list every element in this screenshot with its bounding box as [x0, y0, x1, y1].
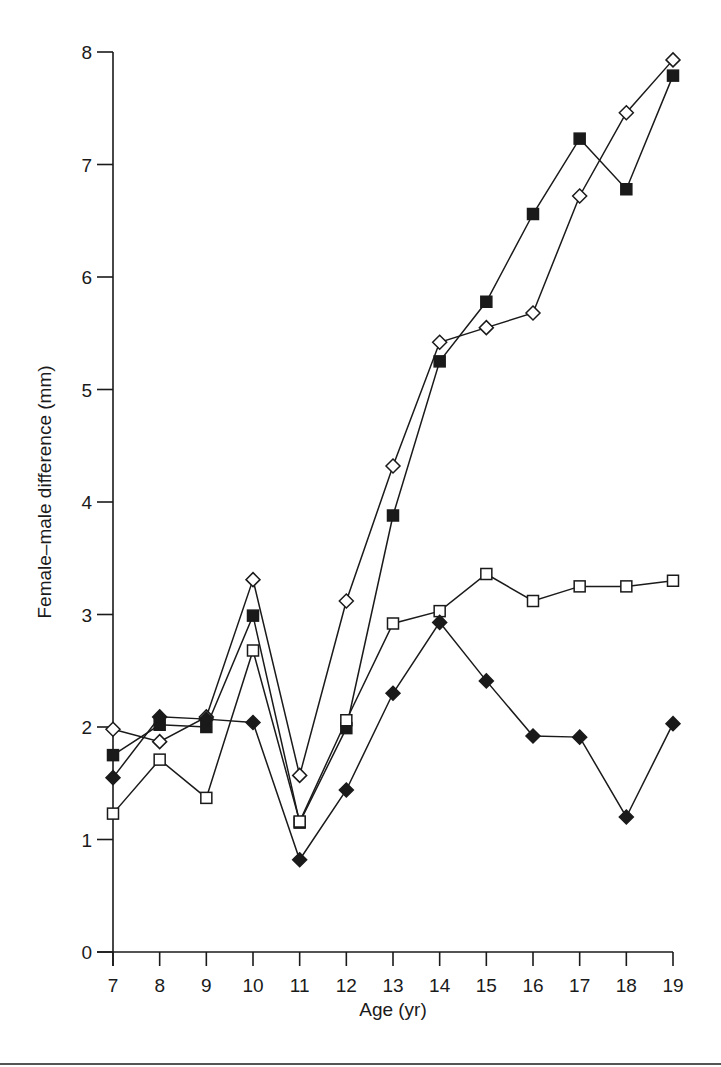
y-ticks: 012345678: [81, 42, 113, 963]
x-tick-label: 19: [662, 975, 683, 996]
y-tick-label: 3: [81, 605, 92, 626]
data-point-square-open: [528, 596, 539, 607]
data-point-diamond-open: [573, 189, 587, 203]
data-point-square-open: [248, 645, 259, 656]
y-axis-label: Female–male difference (mm): [34, 365, 55, 618]
x-ticks: 78910111213141516171819: [108, 952, 684, 996]
y-tick-label: 7: [81, 155, 92, 176]
data-point-square-filled: [528, 209, 539, 220]
series-filled-diamond: [106, 615, 680, 866]
data-point-square-filled: [388, 510, 399, 521]
data-point-diamond-filled: [339, 783, 353, 797]
data-point-square-filled: [668, 70, 679, 81]
data-point-diamond-open: [479, 321, 493, 335]
x-tick-label: 11: [290, 975, 310, 996]
data-point-diamond-open: [293, 768, 307, 782]
data-point-diamond-filled: [433, 615, 447, 629]
y-tick-label: 8: [81, 42, 92, 63]
data-point-square-open: [668, 575, 679, 586]
x-tick-label: 14: [429, 975, 451, 996]
x-tick-label: 9: [201, 975, 212, 996]
y-tick-label: 5: [81, 380, 92, 401]
data-point-diamond-open: [153, 735, 167, 749]
data-point-diamond-filled: [246, 716, 260, 730]
data-point-square-filled: [481, 296, 492, 307]
y-tick-label: 2: [81, 717, 92, 738]
series-open-diamond: [106, 53, 680, 783]
data-point-diamond-open: [433, 335, 447, 349]
data-point-diamond-open: [526, 306, 540, 320]
series-layer: [106, 53, 680, 867]
y-tick-label: 1: [81, 830, 92, 851]
y-tick-label: 4: [81, 492, 92, 513]
data-point-diamond-filled: [106, 771, 120, 785]
x-tick-label: 8: [154, 975, 165, 996]
data-point-square-filled: [434, 356, 445, 367]
data-point-square-open: [341, 715, 352, 726]
series-line-filled-diamond: [113, 622, 673, 859]
data-point-diamond-filled: [666, 717, 680, 731]
series-filled-square: [108, 70, 679, 828]
data-point-square-filled: [108, 750, 119, 761]
x-tick-label: 10: [242, 975, 263, 996]
data-point-square-open: [388, 618, 399, 629]
data-point-square-open: [294, 816, 305, 827]
line-chart: 012345678 78910111213141516171819 Age (y…: [0, 0, 721, 1067]
data-point-square-filled: [621, 184, 632, 195]
data-point-diamond-filled: [573, 730, 587, 744]
data-point-diamond-open: [339, 594, 353, 608]
data-point-diamond-open: [386, 459, 400, 473]
axes: 012345678 78910111213141516171819: [81, 42, 683, 996]
data-point-diamond-filled: [386, 686, 400, 700]
data-point-square-filled: [248, 610, 259, 621]
x-tick-label: 12: [336, 975, 357, 996]
data-point-square-filled: [574, 133, 585, 144]
x-tick-label: 13: [382, 975, 403, 996]
x-tick-label: 15: [476, 975, 497, 996]
data-point-square-open: [108, 808, 119, 819]
x-axis-label: Age (yr): [359, 999, 427, 1020]
x-tick-label: 18: [616, 975, 637, 996]
data-point-square-open: [201, 792, 212, 803]
x-tick-label: 16: [522, 975, 543, 996]
data-point-diamond-filled: [619, 810, 633, 824]
data-point-diamond-open: [246, 573, 260, 587]
y-tick-label: 6: [81, 267, 92, 288]
bottom-divider: [0, 1063, 721, 1065]
data-point-square-open: [574, 581, 585, 592]
data-point-diamond-filled: [293, 853, 307, 867]
data-point-square-open: [154, 754, 165, 765]
data-point-diamond-open: [106, 722, 120, 736]
x-tick-label: 7: [108, 975, 119, 996]
series-line-open-diamond: [113, 60, 673, 776]
data-point-square-open: [481, 569, 492, 580]
series-line-filled-square: [113, 76, 673, 823]
x-tick-label: 17: [569, 975, 590, 996]
y-tick-label: 0: [81, 942, 92, 963]
data-point-square-open: [621, 581, 632, 592]
